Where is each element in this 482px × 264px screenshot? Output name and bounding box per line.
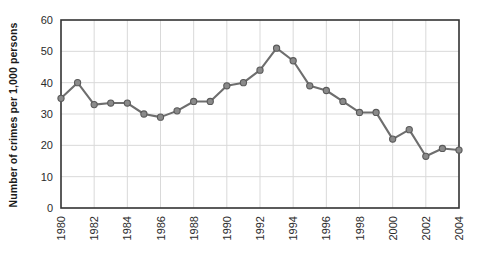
y-tick-label: 0 xyxy=(47,202,53,214)
y-tick-label: 40 xyxy=(41,77,53,89)
y-tick-label: 10 xyxy=(41,171,53,183)
data-point-marker xyxy=(191,98,197,104)
data-point-marker xyxy=(406,127,412,133)
x-tick-label: 1982 xyxy=(88,216,100,240)
data-point-marker xyxy=(124,100,130,106)
y-axis-tick-labels: 0102030405060 xyxy=(41,14,53,214)
x-tick-label: 1990 xyxy=(221,216,233,240)
data-point-marker xyxy=(323,87,329,93)
x-tick-label: 1992 xyxy=(254,216,266,240)
data-point-marker xyxy=(439,145,445,151)
data-point-marker xyxy=(207,98,213,104)
x-tick-label: 1996 xyxy=(320,216,332,240)
data-point-marker xyxy=(356,109,362,115)
data-point-marker xyxy=(307,83,313,89)
data-point-marker xyxy=(240,80,246,86)
data-point-marker xyxy=(390,136,396,142)
x-tick-label: 1998 xyxy=(354,216,366,240)
data-point-marker xyxy=(456,147,462,153)
y-tick-label: 30 xyxy=(41,108,53,120)
data-point-marker xyxy=(157,114,163,120)
x-tick-label: 2004 xyxy=(453,216,465,240)
y-tick-label: 60 xyxy=(41,14,53,26)
x-tick-label: 1986 xyxy=(155,216,167,240)
y-tick-label: 50 xyxy=(41,45,53,57)
data-point-marker xyxy=(290,58,296,64)
x-tick-label: 1994 xyxy=(287,216,299,240)
x-axis-tick-labels: 1980198219841986198819901992199419961998… xyxy=(55,216,465,240)
data-point-marker xyxy=(174,108,180,114)
data-point-marker xyxy=(273,45,279,51)
data-point-marker xyxy=(74,80,80,86)
x-tick-label: 1984 xyxy=(121,216,133,240)
data-point-marker xyxy=(91,102,97,108)
data-point-marker xyxy=(340,98,346,104)
data-point-marker xyxy=(373,109,379,115)
crime-rate-line-chart: Number of crimes per 1,000 persons 01020… xyxy=(0,0,482,264)
y-tick-label: 20 xyxy=(41,139,53,151)
x-tick-label: 2002 xyxy=(420,216,432,240)
x-tick-label: 2000 xyxy=(387,216,399,240)
chart-canvas: 0102030405060 19801982198419861988199019… xyxy=(0,0,482,264)
data-point-marker xyxy=(58,95,64,101)
data-point-marker xyxy=(141,111,147,117)
data-point-marker xyxy=(108,100,114,106)
data-point-marker xyxy=(224,83,230,89)
data-point-marker xyxy=(257,67,263,73)
data-point-marker xyxy=(423,153,429,159)
x-tick-label: 1980 xyxy=(55,216,67,240)
x-tick-label: 1988 xyxy=(188,216,200,240)
